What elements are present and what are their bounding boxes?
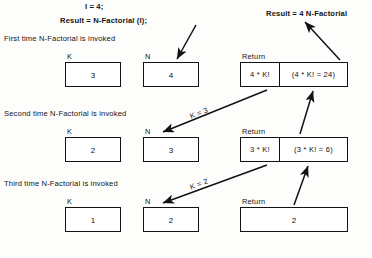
invocation-caption-1: First time N-Factorial is invoked <box>4 35 115 43</box>
value-k-3: 1 <box>66 215 120 224</box>
value-k-2: 2 <box>66 145 120 154</box>
label-n-3: N <box>145 197 151 206</box>
return-expr-1: 4 * K! <box>241 63 279 86</box>
box-k-1: 3 <box>65 62 121 87</box>
arrow-label-k-eq-2: K = 2 <box>188 177 209 192</box>
value-k-1: 3 <box>66 70 120 79</box>
label-k-3: K <box>67 197 72 206</box>
invocation-caption-3: Third time N-Factorial is invoked <box>4 180 118 188</box>
arrow-k-equals-3 <box>163 90 267 132</box>
return-eval-1: (4 * K! = 24) <box>279 63 347 86</box>
box-n-1: 4 <box>143 62 199 87</box>
label-return-1: Return <box>242 52 265 61</box>
box-k-3: 1 <box>65 207 121 232</box>
label-n-1: N <box>145 52 151 61</box>
label-k-2: K <box>67 127 72 136</box>
value-n-3: 2 <box>144 215 198 224</box>
box-return-1: 4 * K! (4 * K! = 24) <box>240 62 348 87</box>
return-eval-2: (3 * K! = 6) <box>279 138 347 161</box>
code-line-call: Result = N-Factorial (I); <box>60 17 147 25</box>
value-n-2: 3 <box>144 145 198 154</box>
box-n-2: 3 <box>143 137 199 162</box>
value-n-1: 4 <box>144 70 198 79</box>
box-return-3: 2 <box>240 207 348 232</box>
label-k-1: K <box>67 52 72 61</box>
label-n-2: N <box>145 127 151 136</box>
arrow-label-k-eq-3: K = 3 <box>188 106 209 121</box>
arrow-call-to-n-1 <box>177 25 196 59</box>
return-expr-2: 3 * K! <box>241 138 279 161</box>
arrow-return-to-result <box>305 22 340 60</box>
recursion-trace-diagram: I = 4; Result = N-Factorial (I); Result … <box>0 0 372 258</box>
arrow-return-3-to-2 <box>294 166 308 205</box>
label-return-3: Return <box>242 197 265 206</box>
label-return-2: Return <box>242 127 265 136</box>
box-k-2: 2 <box>65 137 121 162</box>
final-result-note: Result = 4 N-Factorial <box>266 10 347 18</box>
box-return-2: 3 * K! (3 * K! = 6) <box>240 137 348 162</box>
code-line-assignment: I = 4; <box>85 3 103 11</box>
invocation-caption-2: Second time N-Factorial is invoked <box>4 110 126 118</box>
return-expr-3: 2 <box>241 215 347 224</box>
box-n-3: 2 <box>143 207 199 232</box>
arrow-return-2-to-1 <box>300 91 313 134</box>
